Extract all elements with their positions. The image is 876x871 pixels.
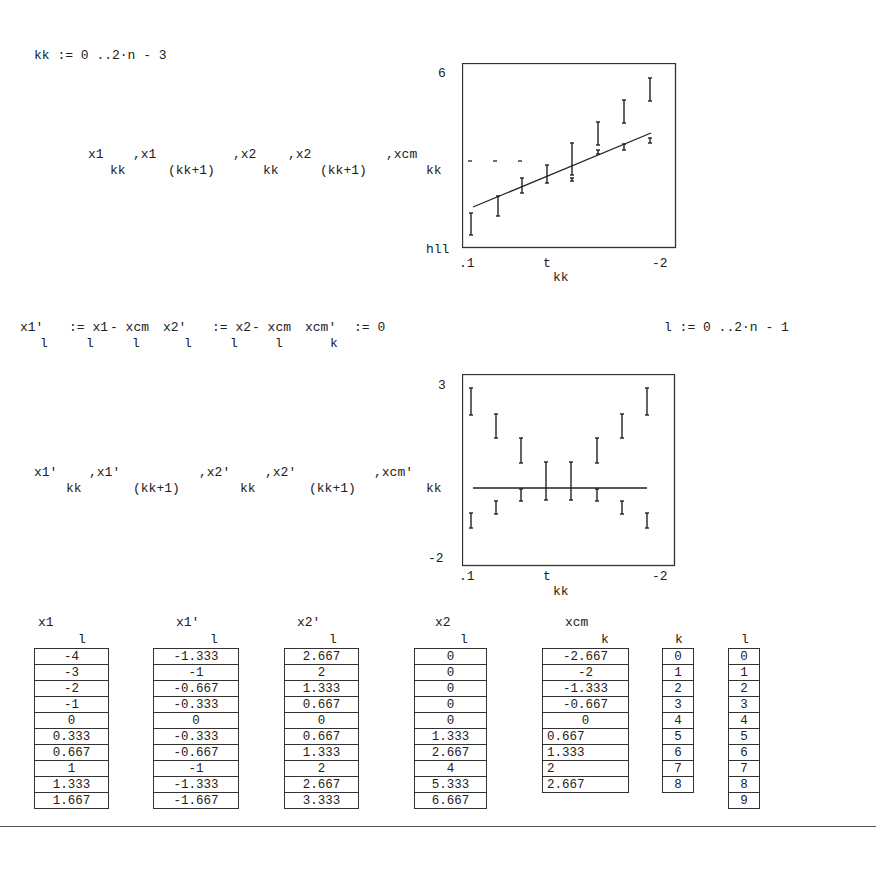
table-5-subscript: k (675, 633, 683, 646)
expr-sub-kk: kk (110, 164, 126, 177)
table-3-subscript: l (460, 633, 468, 646)
table-cell: 0.333 (35, 729, 108, 745)
expr-sub-kk: kk (240, 482, 256, 495)
page-divider (0, 826, 876, 827)
table-cell: -3 (35, 665, 108, 681)
table-cell: 7 (729, 761, 759, 777)
plot2-y-min: -2 (428, 552, 444, 565)
result-table-x1[interactable]: -4-3-2-100.3330.66711.3331.667 (34, 648, 109, 809)
x2p-minus-sub: l (275, 337, 283, 350)
range-l-definition[interactable]: l := 0 ..2·n - 1 (664, 321, 789, 334)
table-cell: 5 (729, 729, 759, 745)
table-cell: -2.667 (543, 649, 628, 665)
table-cell: 2.667 (543, 777, 628, 793)
table-cell: 2 (543, 761, 628, 777)
table-cell: 8 (729, 777, 759, 793)
expr-x2p: ,x2' (199, 466, 230, 479)
plot2-y-max: 3 (438, 379, 446, 392)
table-0-subscript: l (78, 633, 86, 646)
table-3-name: x2 (435, 616, 451, 629)
table-cell: 1.333 (543, 745, 628, 761)
table-cell: 0.667 (285, 697, 358, 713)
xcmp-lhs-sub: k (330, 337, 338, 350)
x2p-minus: - xcm (252, 321, 291, 334)
x2p-lhs-sub: l (184, 337, 192, 350)
expr-sub-kk: kk (426, 482, 442, 495)
expr-x2p-next: ,x2' (265, 466, 296, 479)
table-cell: 0.667 (35, 745, 108, 761)
table-cell: -1.333 (154, 649, 238, 665)
plot2-x-mid: t (543, 570, 551, 583)
table-cell: 0 (415, 681, 486, 697)
result-table-index-l[interactable]: 0123456789 (728, 648, 760, 809)
table-cell: 0 (35, 713, 108, 729)
plot2-x-min: .1 (459, 570, 475, 583)
table-cell: 0.667 (543, 729, 628, 745)
table-cell: 0 (663, 649, 693, 665)
table-cell: -0.667 (154, 745, 238, 761)
plot1-error-bar-chart[interactable] (462, 63, 677, 249)
table-4-name: xcm (565, 616, 588, 629)
plot2-error-bar-chart[interactable] (462, 374, 676, 567)
x1p-minus-sub: l (132, 337, 140, 350)
table-cell: 6 (663, 745, 693, 761)
table-cell: -4 (35, 649, 108, 665)
table-4-subscript: k (601, 633, 609, 646)
table-cell: 1.333 (415, 729, 486, 745)
table-cell: -1.333 (154, 777, 238, 793)
result-table-xcm[interactable]: -2.667-2-1.333-0.66700.6671.33322.667 (542, 648, 629, 793)
table-cell: -0.333 (154, 729, 238, 745)
x2p-lhs: x2' (163, 321, 186, 334)
expr-sub-kk1: (kk+1) (133, 482, 180, 495)
table-cell: 2.667 (415, 745, 486, 761)
result-table-x2'[interactable]: 2.66721.3330.66700.6671.33322.6673.333 (284, 648, 359, 809)
table-cell: 6.667 (415, 793, 486, 809)
table-cell: 3 (729, 697, 759, 713)
table-cell: -0.667 (154, 681, 238, 697)
table-cell: -1.667 (154, 793, 238, 809)
expr-sub-kk: kk (66, 482, 82, 495)
table-cell: 1.333 (285, 745, 358, 761)
table-cell: -0.667 (543, 697, 628, 713)
table-cell: 9 (729, 793, 759, 809)
plot2-x-label: kk (553, 585, 569, 598)
table-2-name: x2' (297, 616, 320, 629)
xcmp-rhs: := 0 (354, 321, 385, 334)
table-cell: 5 (663, 729, 693, 745)
result-table-index-k[interactable]: 012345678 (662, 648, 694, 793)
table-cell: 7 (663, 761, 693, 777)
expr-xcm: ,xcm (386, 148, 417, 161)
plot2-canvas (462, 374, 676, 567)
table-cell: 1 (729, 665, 759, 681)
expr-x1p: x1' (34, 466, 57, 479)
expr-xcmp: ,xcm' (374, 466, 413, 479)
table-cell: 1.333 (35, 777, 108, 793)
table-cell: 2 (285, 665, 358, 681)
plot1-y-min: hll (426, 243, 449, 256)
expr-sub-kk1: (kk+1) (320, 164, 367, 177)
table-cell: 0 (729, 649, 759, 665)
expr-x2-next: ,x2 (288, 148, 311, 161)
result-table-x2[interactable]: 000001.3332.66745.3336.667 (414, 648, 487, 809)
xcmp-lhs: xcm' (305, 321, 336, 334)
result-table-x1'[interactable]: -1.333-1-0.667-0.3330-0.333-0.667-1-1.33… (153, 648, 239, 809)
table-cell: 6 (729, 745, 759, 761)
plot1-canvas (462, 63, 677, 249)
table-cell: 1.667 (35, 793, 108, 809)
table-cell: -2 (35, 681, 108, 697)
table-cell: -0.333 (154, 697, 238, 713)
expr-sub-kk: kk (426, 164, 442, 177)
table-cell: -1.333 (543, 681, 628, 697)
table-2-subscript: l (329, 633, 337, 646)
table-cell: 2 (285, 761, 358, 777)
table-cell: 1 (663, 665, 693, 681)
table-cell: 2.667 (285, 777, 358, 793)
x1p-rhs: := x1 (69, 321, 108, 334)
table-cell: 0 (415, 665, 486, 681)
table-cell: 0 (154, 713, 238, 729)
table-cell: 5.333 (415, 777, 486, 793)
range-kk-definition[interactable]: kk := 0 ..2·n - 3 (34, 49, 167, 62)
table-cell: 3.333 (285, 793, 358, 809)
table-cell: 1 (35, 761, 108, 777)
table-cell: 0 (543, 713, 628, 729)
